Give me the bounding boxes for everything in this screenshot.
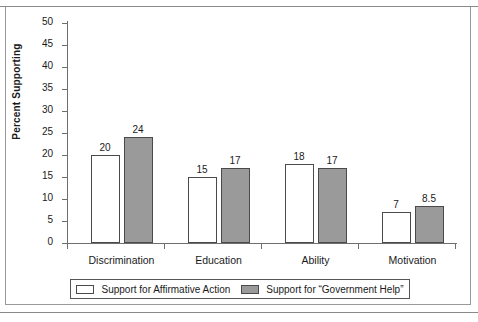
y-tick-label-5: 5	[29, 214, 53, 226]
bar-group: 78.5	[382, 23, 444, 243]
x-axis-line	[67, 243, 457, 244]
bar-group: 1817	[285, 23, 347, 243]
x-tick	[164, 243, 165, 249]
legend-label: Support for “Government Help”	[266, 284, 403, 295]
y-tick-40: 40	[62, 67, 67, 68]
bar-value-label: 24	[132, 124, 143, 135]
bar-group: 2024	[91, 23, 153, 243]
bar-value-label: 7	[393, 199, 399, 210]
x-tick	[455, 243, 456, 249]
x-tick	[261, 243, 262, 249]
chart-legend: Support for Affirmative ActionSupport fo…	[70, 279, 410, 299]
legend-label: Support for Affirmative Action	[101, 284, 230, 295]
bar-value-label: 18	[293, 151, 304, 162]
page-rule-bottom	[0, 312, 478, 313]
y-tick-label-20: 20	[29, 148, 53, 160]
bar-value-label: 8.5	[422, 193, 436, 204]
y-tick-5: 5	[62, 221, 67, 222]
y-tick-20: 20	[62, 155, 67, 156]
bar-group: 1517	[188, 23, 250, 243]
y-tick-10: 10	[62, 199, 67, 200]
y-tick-label-45: 45	[29, 38, 53, 50]
bar-affirmative-action: 15	[188, 177, 217, 243]
bar-affirmative-action: 20	[91, 155, 120, 243]
bar-government-help: 24	[124, 137, 153, 243]
gray-swatch	[241, 285, 259, 294]
figure-page: Percent Supporting 50454035302520151050 …	[0, 0, 478, 322]
y-tick-label-35: 35	[29, 82, 53, 94]
bar-government-help: 8.5	[415, 206, 444, 243]
white-swatch	[76, 285, 94, 294]
bar-value-label: 15	[196, 164, 207, 175]
category-label-motivation: Motivation	[353, 254, 473, 266]
y-tick-label-15: 15	[29, 170, 53, 182]
y-tick-label-0: 0	[29, 236, 53, 248]
y-tick-50: 50	[62, 23, 67, 24]
y-tick-30: 30	[62, 111, 67, 112]
y-tick-15: 15	[62, 177, 67, 178]
bar-government-help: 17	[318, 168, 347, 243]
y-tick-25: 25	[62, 133, 67, 134]
bar-value-label: 17	[326, 155, 337, 166]
bar-affirmative-action: 18	[285, 164, 314, 243]
y-axis-line	[67, 21, 68, 245]
plot-area: 50454035302520151050 20241517181778.5 Di…	[67, 23, 455, 243]
x-tick	[67, 243, 68, 249]
y-axis-title: Percent Supporting	[11, 32, 22, 152]
legend-entry: Support for Affirmative Action	[76, 284, 230, 295]
y-tick-label-25: 25	[29, 126, 53, 138]
bar-value-label: 20	[99, 142, 110, 153]
legend-entry: Support for “Government Help”	[241, 284, 403, 295]
y-tick-label-30: 30	[29, 104, 53, 116]
y-tick-label-10: 10	[29, 192, 53, 204]
y-tick-label-40: 40	[29, 60, 53, 72]
bar-affirmative-action: 7	[382, 212, 411, 243]
y-tick-label-50: 50	[29, 16, 53, 28]
x-tick	[358, 243, 359, 249]
y-tick-35: 35	[62, 89, 67, 90]
bar-government-help: 17	[221, 168, 250, 243]
y-tick-45: 45	[62, 45, 67, 46]
bar-value-label: 17	[229, 155, 240, 166]
